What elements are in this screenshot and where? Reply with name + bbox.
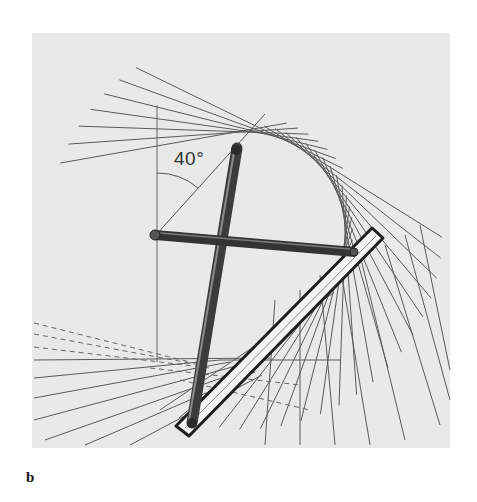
angle-label: 40° — [174, 148, 204, 170]
panel-label: b — [26, 469, 34, 486]
pivot-icon — [187, 418, 197, 428]
linkage-figure — [0, 0, 477, 502]
pivot-icon — [150, 230, 160, 240]
pivot-icon — [350, 248, 358, 256]
pivot-icon — [231, 145, 241, 155]
